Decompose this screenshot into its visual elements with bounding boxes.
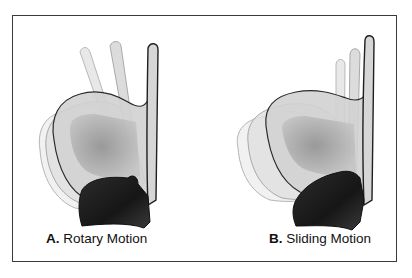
condyle-stem-main — [363, 36, 374, 205]
caption-panel-a: A. Rotary Motion — [46, 231, 147, 246]
condyle-stem-main — [147, 44, 158, 205]
caption-label-a: Rotary Motion — [63, 231, 147, 246]
caption-panel-b: B. Sliding Motion — [269, 231, 371, 246]
caption-letter-a: A. — [46, 231, 60, 246]
caption-letter-b: B. — [269, 231, 283, 246]
panel-b-sliding-drawing — [237, 36, 374, 230]
caption-label-b: Sliding Motion — [286, 231, 371, 246]
panel-a-rotary-drawing — [39, 42, 158, 229]
